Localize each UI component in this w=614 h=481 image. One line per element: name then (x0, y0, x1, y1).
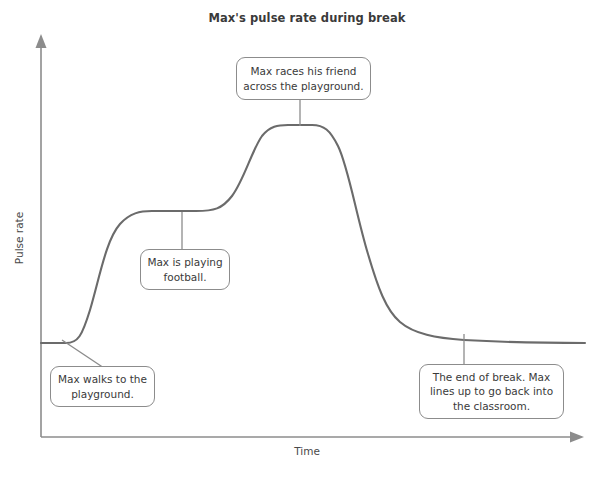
annotation-text-race: Max races his friend across the playgrou… (243, 64, 364, 93)
annotation-text-endbreak: The end of break. Max lines up to go bac… (426, 370, 557, 414)
y-axis-label: Pulse rate (13, 198, 25, 278)
chart-container: Max's pulse rate during break Pulse rate… (0, 0, 614, 481)
connector-walks (62, 340, 104, 368)
annotation-callout-football: Max is playing football. (140, 249, 230, 290)
annotation-callout-race: Max races his friend across the playgrou… (236, 57, 371, 100)
annotation-callout-walks: Max walks to the playground. (50, 366, 155, 407)
x-axis-arrow-icon (570, 432, 584, 443)
annotation-callout-endbreak: The end of break. Max lines up to go bac… (419, 364, 564, 419)
annotation-text-walks: Max walks to the playground. (57, 372, 148, 401)
chart-title: Max's pulse rate during break (0, 11, 614, 25)
x-axis-label: Time (0, 445, 614, 457)
annotation-text-football: Max is playing football. (147, 255, 223, 284)
pulse-rate-curve (41, 125, 585, 343)
y-axis-arrow-icon (36, 34, 47, 48)
